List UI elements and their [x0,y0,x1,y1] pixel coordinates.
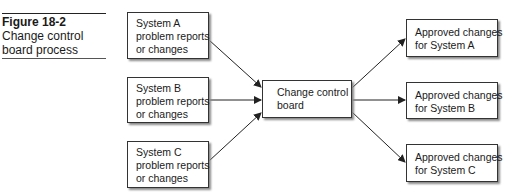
output-a-line1: Approved changes [415,26,489,39]
arrow-board-to-c [352,112,405,162]
output-b-line2: for System B [415,102,489,115]
board-line1: Change control [277,86,337,99]
output-a-line2: for System A [415,39,489,52]
board-line2: board [277,99,337,112]
input-a-line1: System A [136,17,200,30]
output-c-line2: for System C [415,164,489,177]
input-box-system-c: System C problem reports or changes [127,141,209,188]
arrow-board-to-a [352,39,405,88]
output-box-system-c: Approved changes for System C [406,144,498,182]
arrow-c-to-board [209,113,261,161]
output-c-line1: Approved changes [415,151,489,164]
arrow-a-to-board [209,40,261,87]
output-box-system-a: Approved changes for System A [406,19,498,57]
input-c-line1: System C [136,146,200,159]
input-box-system-a: System A problem reports or changes [127,12,209,59]
input-c-line3: or changes [136,172,200,185]
input-box-system-b: System B problem reports or changes [127,77,209,123]
input-b-line2: problem reports [136,95,200,108]
input-c-line2: problem reports [136,159,200,172]
output-b-line1: Approved changes [415,89,489,102]
output-box-system-b: Approved changes for System B [406,82,498,119]
input-a-line3: or changes [136,43,200,56]
change-control-board-box: Change control board [262,80,352,118]
input-b-line3: or changes [136,108,200,121]
input-a-line2: problem reports [136,30,200,43]
input-b-line1: System B [136,82,200,95]
